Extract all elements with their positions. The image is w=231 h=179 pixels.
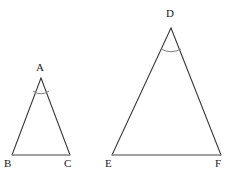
vertex-label-a: A: [36, 62, 44, 73]
segment-ab: [12, 78, 41, 155]
segment-df: [171, 28, 221, 155]
angle-arc-d: [161, 49, 181, 52]
segment-ac: [41, 78, 70, 155]
vertex-label-e: E: [105, 158, 112, 169]
segment-de: [112, 28, 171, 155]
geometry-figure: A B C D E F: [0, 0, 231, 179]
vertex-label-c: C: [64, 158, 71, 169]
figure-canvas: [0, 0, 231, 179]
triangle-abc: [12, 78, 70, 155]
triangle-def: [112, 28, 221, 155]
vertex-label-d: D: [166, 8, 174, 19]
vertex-label-f: F: [215, 158, 221, 169]
vertex-label-b: B: [4, 158, 11, 169]
